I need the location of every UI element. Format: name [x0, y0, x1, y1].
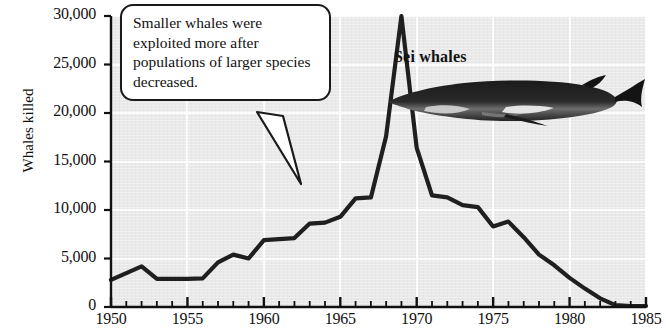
axes-layer	[0, 0, 650, 333]
chart-figure: Whales killed 05,00010,00015,00020,00025…	[0, 0, 650, 333]
